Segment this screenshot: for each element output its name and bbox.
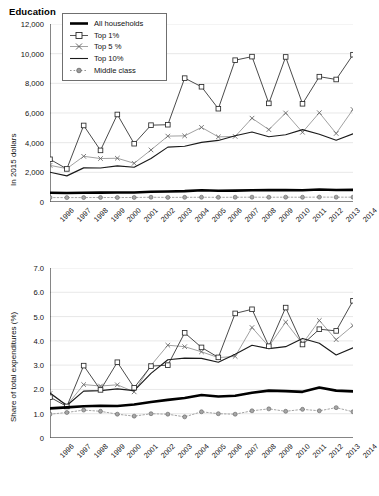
y-tick-label: 4,000 xyxy=(0,138,44,147)
x-tick-label: 2010 xyxy=(293,206,311,224)
x-tick-label: 2002 xyxy=(159,206,177,224)
x-tick-label: 2012 xyxy=(327,206,345,224)
legend-label: Top 5 % xyxy=(93,42,121,51)
x-tick-label: 2013 xyxy=(344,206,362,224)
page-title: Education xyxy=(9,6,56,17)
y-tick-label: 7.0 xyxy=(0,264,44,273)
x-tick-label: 2003 xyxy=(176,206,194,224)
x-tick-label: 1999 xyxy=(108,442,126,460)
x-tick-label: 2009 xyxy=(277,206,295,224)
x-tick-label: 2014 xyxy=(361,206,379,224)
x-tick-label: 2007 xyxy=(243,206,261,224)
y-tick-label: 2,000 xyxy=(0,168,44,177)
x-tick-label: 1998 xyxy=(91,442,109,460)
legend-key-middle-class-icon xyxy=(67,65,93,76)
legend-label: Top 10% xyxy=(93,54,124,63)
x-tick-label: 2009 xyxy=(277,442,295,460)
legend-item: All households xyxy=(67,18,163,30)
chart-panel-top: In 2015 dollars 02,0004,0006,0008,00010,… xyxy=(0,18,362,250)
legend-item: Top 10% xyxy=(67,53,163,65)
x-tick-label: 2006 xyxy=(226,442,244,460)
x-tick-label: 2007 xyxy=(243,442,261,460)
x-tick-label: 1996 xyxy=(58,442,76,460)
legend-item: Top 1% xyxy=(67,30,163,42)
x-tick-label: 2008 xyxy=(260,442,278,460)
x-tick-label: 2012 xyxy=(327,442,345,460)
y-tick-label: 1.0 xyxy=(0,409,44,418)
y-tick-label: 2.0 xyxy=(0,385,44,394)
x-tick-label: 1997 xyxy=(75,442,93,460)
x-tick-label: 2001 xyxy=(142,442,160,460)
legend-label: All households xyxy=(93,19,143,28)
x-tick-label: 2001 xyxy=(142,206,160,224)
y-tick-label: 10,000 xyxy=(0,49,44,58)
x-tick-label: 1997 xyxy=(75,206,93,224)
x-tick-label: 2010 xyxy=(293,442,311,460)
x-tick-label: 1998 xyxy=(91,206,109,224)
legend-item: Top 5 % xyxy=(67,41,163,53)
chart-panel-bottom: Share of total expenditures (%) 01.02.03… xyxy=(0,262,362,496)
y-tick-label: 0 xyxy=(0,434,44,443)
y-tick-label: 12,000 xyxy=(0,20,44,29)
y-tick-label: 5.0 xyxy=(0,312,44,321)
x-tick-label: 2006 xyxy=(226,206,244,224)
legend-label: Middle class xyxy=(93,66,136,75)
legend-label: Top 1% xyxy=(93,31,119,40)
x-tick-label: 2011 xyxy=(310,442,328,460)
y-tick-label: 0 xyxy=(0,198,44,207)
plot-area-bottom xyxy=(50,268,353,438)
x-tick-label: 2011 xyxy=(310,206,328,224)
x-tick-label: 1996 xyxy=(58,206,76,224)
x-tick-label: 2000 xyxy=(125,206,143,224)
y-tick-label: 6,000 xyxy=(0,109,44,118)
x-tick-label: 2004 xyxy=(192,206,210,224)
legend-key-top-5-icon xyxy=(67,41,93,52)
legend-key-top-1-icon xyxy=(67,30,93,41)
legend-key-top-10-icon xyxy=(67,53,93,64)
x-tick-label: 2004 xyxy=(192,442,210,460)
x-tick-label: 2005 xyxy=(209,206,227,224)
y-tick-label: 6.0 xyxy=(0,288,44,297)
x-tick-label: 2005 xyxy=(209,442,227,460)
x-tick-label: 2000 xyxy=(125,442,143,460)
x-tick-label: 2008 xyxy=(260,206,278,224)
x-tick-label: 2002 xyxy=(159,442,177,460)
legend: All households Top 1% Top 5 % xyxy=(62,13,167,81)
legend-key-all-households-icon xyxy=(67,18,93,29)
x-tick-label: 1999 xyxy=(108,206,126,224)
x-tick-label: 2014 xyxy=(361,442,379,460)
x-tick-label: 2003 xyxy=(176,442,194,460)
y-tick-label: 8,000 xyxy=(0,79,44,88)
legend-item: Middle class xyxy=(67,64,163,76)
y-tick-label: 4.0 xyxy=(0,336,44,345)
x-tick-label: 2013 xyxy=(344,442,362,460)
y-tick-label: 3.0 xyxy=(0,361,44,370)
